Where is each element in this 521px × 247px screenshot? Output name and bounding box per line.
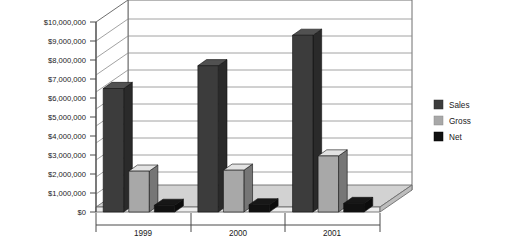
bar-front-face — [154, 205, 174, 212]
y-tick-label: $7,000,000 — [48, 75, 86, 84]
bar-front-face — [293, 35, 313, 212]
x-tick-label: 2001 — [323, 229, 342, 238]
bar-gross-2000 — [223, 164, 252, 212]
legend-swatch-gross — [434, 116, 443, 125]
bar-front-face — [103, 89, 123, 213]
y-axis-tick-labels: $10,000,000 $9,000,000 $8,000,000 $7,000… — [44, 18, 86, 217]
legend-label-sales: Sales — [449, 101, 469, 110]
y-tick-label: $5,000,000 — [48, 113, 86, 122]
y-tick-label: $8,000,000 — [48, 56, 86, 65]
bar-front-face — [249, 205, 269, 212]
bar-front-face — [318, 156, 338, 212]
bar-chart-3d: $10,000,000 $9,000,000 $8,000,000 $7,000… — [0, 0, 521, 247]
bar-sales-1999 — [103, 82, 132, 212]
y-tick-label: $3,000,000 — [48, 151, 86, 160]
bar-front-face — [198, 66, 218, 212]
bar-gross-1999 — [129, 165, 158, 212]
y-tick-label: $4,000,000 — [48, 132, 86, 141]
y-tick-label: $2,000,000 — [48, 170, 86, 179]
y-axis-line — [90, 22, 96, 212]
y-tick-label: $9,000,000 — [48, 37, 86, 46]
bar-sales-2001 — [293, 29, 322, 212]
x-tick-label: 1999 — [134, 229, 153, 238]
y-tick-label: $10,000,000 — [44, 18, 86, 27]
y-tick-label: $0 — [78, 208, 86, 217]
bar-front-face — [344, 203, 364, 212]
chart-canvas: $10,000,000 $9,000,000 $8,000,000 $7,000… — [0, 0, 521, 247]
y-tick-label: $1,000,000 — [48, 189, 86, 198]
bar-sales-2000 — [198, 60, 227, 212]
legend-label-net: Net — [449, 133, 462, 142]
plot-back-wall — [128, 0, 412, 190]
legend-swatch-net — [434, 132, 443, 141]
bar-gross-2001 — [318, 150, 347, 212]
legend: Sales Gross Net — [434, 100, 471, 142]
bar-front-face — [129, 171, 149, 212]
y-tick-label: $6,000,000 — [48, 94, 86, 103]
legend-label-gross: Gross — [449, 117, 471, 126]
legend-swatch-sales — [434, 100, 443, 109]
bar-front-face — [223, 170, 243, 212]
x-tick-label: 2000 — [229, 229, 248, 238]
x-axis-tick-labels: 1999 2000 2001 — [134, 229, 342, 238]
